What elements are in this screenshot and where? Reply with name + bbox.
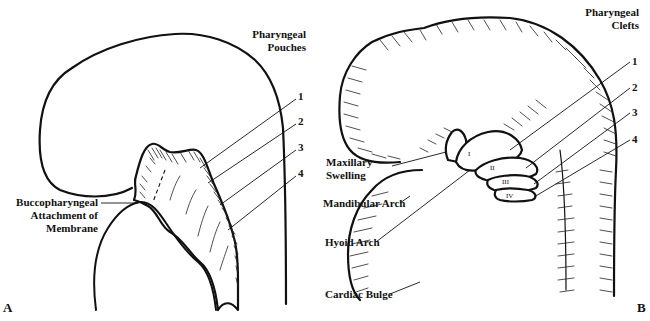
hyoid-arch-label: Hyoid Arch [325,236,380,249]
buccopharyngeal-line1: Buccopharyngeal [4,196,98,209]
pharyngeal-diagram: I II III IV [0,0,650,321]
panel-b-heading-line2: Clefts [565,19,639,32]
maxillary-line1: Maxillary [326,156,372,169]
buccopharyngeal-line2: Attachment of [4,209,98,222]
arch-numeral-4: IV [506,192,513,200]
maxillary-line2: Swelling [326,169,372,182]
buccopharyngeal-line3: Membrane [4,222,98,235]
arch-numeral-2: II [490,164,495,172]
panel-b-letter: B [637,301,646,314]
panel-b-arch-4 [495,189,536,202]
panel-a-drawing [40,34,296,310]
panel-b-cleft-4: 4 [632,133,638,146]
panel-a-heading: Pharyngeal Pouches [228,28,306,54]
panel-b-cleft-2: 2 [632,81,638,94]
maxillary-swelling-label: Maxillary Swelling [326,156,372,182]
panel-b-cleft-3: 3 [632,106,638,119]
panel-b-heading-line1: Pharyngeal [565,6,639,19]
panel-a-heading-line2: Pouches [228,41,306,54]
panel-a-heading-line1: Pharyngeal [228,28,306,41]
panel-a-letter: A [3,301,12,314]
buccopharyngeal-label: Buccopharyngeal Attachment of Membrane [4,196,98,235]
panel-a-pouch-2: 2 [298,115,304,128]
panel-b-drawing: I II III IV [339,17,630,300]
panel-a-pouch-1: 1 [298,90,304,103]
arch-numeral-3: III [502,178,510,186]
panel-b-heading: Pharyngeal Clefts [565,6,639,32]
cardiac-bulge-label: Cardiac Bulge [325,288,393,301]
panel-a-pouch-4: 4 [298,167,304,180]
panel-a-pouch-3: 3 [298,141,304,154]
mandibular-arch-label: Mandibular Arch [323,197,405,210]
panel-b-cleft-1: 1 [632,55,638,68]
